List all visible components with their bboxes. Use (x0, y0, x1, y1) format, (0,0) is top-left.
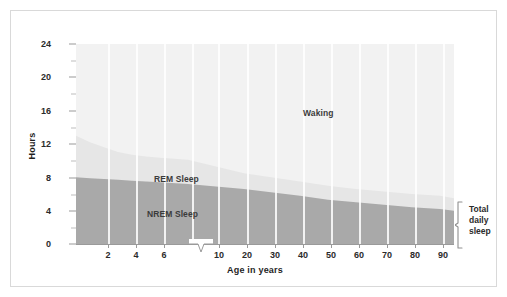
x-axis-break-icon (189, 239, 213, 253)
y-tick-mark (69, 244, 76, 245)
y-tick-mark-minor (71, 227, 76, 228)
x-axis-title: Age in years (227, 265, 283, 275)
x-tick-label-30: 30 (270, 250, 280, 260)
bracket-icon (455, 201, 467, 249)
x-tick-label-90: 90 (438, 250, 448, 260)
gridline-vertical (275, 44, 277, 244)
y-tick-label-4: 4 (27, 206, 51, 216)
x-tick-mark (108, 244, 109, 248)
y-tick-mark (69, 111, 76, 112)
x-tick-mark (415, 244, 416, 248)
y-tick-label-0: 0 (27, 239, 51, 249)
y-tick-mark (69, 178, 76, 179)
gridline-vertical (247, 44, 249, 244)
y-tick-mark-minor (71, 94, 76, 95)
gridline-vertical (415, 44, 417, 244)
bracket-line-1: Total (469, 204, 491, 215)
y-tick-mark (69, 211, 76, 212)
gridline-vertical (136, 44, 138, 244)
gridline-vertical (303, 44, 305, 244)
x-tick-mark (303, 244, 304, 248)
gridline-vertical (218, 44, 220, 244)
x-tick-mark (387, 244, 388, 248)
gridline-vertical (108, 44, 110, 244)
x-tick-label-20: 20 (242, 250, 252, 260)
series-label-nrem-sleep: NREM Sleep (147, 209, 198, 219)
y-tick-label-16: 16 (27, 106, 51, 116)
x-tick-mark (275, 244, 276, 248)
y-tick-mark-minor (71, 161, 76, 162)
y-tick-mark-minor (71, 60, 76, 61)
x-tick-label-60: 60 (354, 250, 364, 260)
x-tick-label-40: 40 (298, 250, 308, 260)
x-tick-label-2: 2 (105, 250, 110, 260)
gridline-vertical (359, 44, 361, 244)
gridline-vertical (331, 44, 333, 244)
y-tick-mark (69, 44, 76, 45)
x-tick-label-10: 10 (214, 250, 224, 260)
x-tick-mark (164, 244, 165, 248)
y-tick-mark-minor (71, 127, 76, 128)
series-label-rem-sleep: REM Sleep (154, 174, 199, 184)
bracket-line-3: sleep (469, 226, 491, 237)
x-tick-mark (136, 244, 137, 248)
x-tick-label-80: 80 (410, 250, 420, 260)
y-tick-label-24: 24 (27, 39, 51, 49)
y-tick-label-12: 12 (27, 139, 51, 149)
gridline-vertical (387, 44, 389, 244)
x-tick-mark (359, 244, 360, 248)
total-daily-sleep-annotation: Total daily sleep (455, 201, 507, 251)
plot-area (76, 44, 454, 244)
x-tick-label-70: 70 (382, 250, 392, 260)
y-tick-mark (69, 144, 76, 145)
x-tick-label-50: 50 (326, 250, 336, 260)
total-daily-sleep-label: Total daily sleep (469, 204, 491, 237)
gridline-vertical (443, 44, 445, 244)
series-label-waking: Waking (303, 108, 334, 118)
y-tick-label-8: 8 (27, 173, 51, 183)
bracket-line-2: daily (469, 215, 491, 226)
x-tick-mark (443, 244, 444, 248)
figure-frame: Hours Waking REM Sleep NREM Sleep 24 20 … (10, 10, 497, 287)
x-tick-label-6: 6 (161, 250, 166, 260)
x-tick-mark (331, 244, 332, 248)
y-tick-label-20: 20 (27, 72, 51, 82)
x-tick-mark (247, 244, 248, 248)
x-axis-line (76, 244, 454, 245)
stacked-area-bands (76, 44, 454, 244)
x-tick-mark (219, 244, 220, 248)
y-tick-mark (69, 77, 76, 78)
y-tick-mark-minor (71, 194, 76, 195)
x-tick-label-4: 4 (133, 250, 138, 260)
